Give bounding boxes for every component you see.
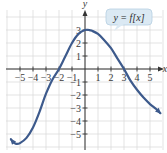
y-axis-label: y (82, 0, 88, 9)
y-tick-label: −2 (70, 90, 81, 101)
y-tick-label: 1 (76, 51, 81, 62)
function-graph: −5−4−3−2−112345−5−4−3−2−1123 y = f[x] y … (0, 0, 167, 153)
y-axis-arrow-icon (83, 10, 88, 16)
y-tick-label: 2 (76, 38, 81, 49)
x-tick-label: −4 (28, 72, 39, 83)
y-tick-label: −5 (70, 129, 81, 140)
x-tick-label: −3 (41, 72, 52, 83)
y-tick-label: −1 (70, 77, 81, 88)
y-tick-label: −3 (70, 103, 81, 114)
x-axis-label: x (162, 63, 167, 74)
callout-label: y = f[x] (112, 12, 144, 23)
x-tick-label: 4 (135, 72, 140, 83)
function-callout: y = f[x] (106, 9, 152, 31)
y-tick-label: −4 (70, 116, 81, 127)
x-tick-label: −5 (15, 72, 26, 83)
x-tick-label: 2 (109, 72, 114, 83)
x-tick-label: 1 (96, 72, 101, 83)
x-tick-label: 5 (148, 72, 153, 83)
